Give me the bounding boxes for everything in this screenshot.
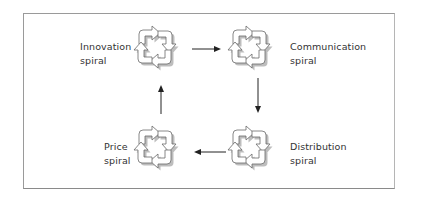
- flow-arrows: [0, 0, 425, 199]
